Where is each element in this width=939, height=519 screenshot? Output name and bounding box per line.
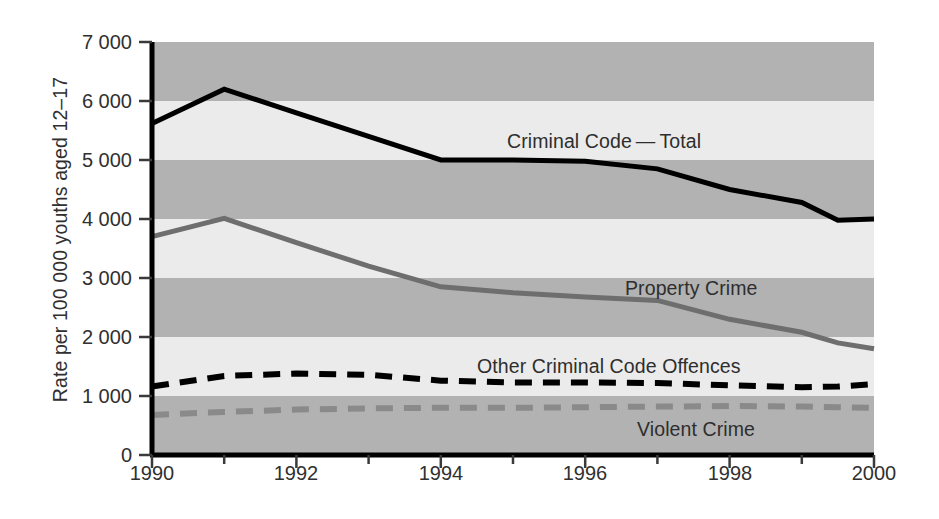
chart-figure: Rate per 100 000 youths aged 12–17 7 000… (0, 0, 939, 519)
background-band (152, 160, 874, 219)
series-label-property-crime: Property Crime (625, 277, 758, 300)
background-band (152, 42, 874, 101)
series-label-criminal-code-total: Criminal Code — Total (507, 130, 701, 153)
background-band (152, 219, 874, 278)
background-bands (152, 42, 874, 455)
series-label-other-criminal-code-offences: Other Criminal Code Offences (477, 355, 741, 378)
series-label-violent-crime: Violent Crime (637, 418, 755, 441)
background-band (152, 396, 874, 455)
plot-area (0, 0, 939, 519)
